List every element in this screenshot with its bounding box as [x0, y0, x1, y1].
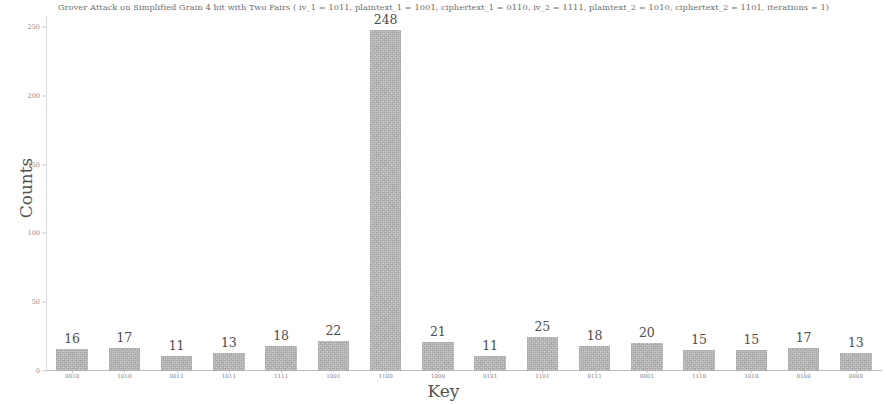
bar	[631, 343, 662, 371]
x-tick-label: 0100	[797, 373, 811, 379]
y-tick-label: 200	[0, 92, 40, 100]
bar	[318, 341, 349, 371]
x-tick-mark	[542, 370, 543, 373]
bar-group: 16	[56, 16, 87, 371]
bar-value-label: 13	[848, 335, 864, 350]
bar-group: 248	[370, 16, 401, 371]
x-tick-mark	[699, 370, 700, 373]
bar-value-label: 248	[374, 12, 398, 27]
bar	[736, 350, 767, 371]
bar-group: 25	[527, 16, 558, 371]
bar-value-label: 15	[743, 332, 759, 347]
x-tick-label: 0101	[483, 373, 497, 379]
x-tick-mark	[804, 370, 805, 373]
x-tick-label: 0001	[640, 373, 654, 379]
x-tick-label: 1010	[744, 373, 758, 379]
bar-value-label: 18	[587, 328, 603, 343]
bar	[370, 30, 401, 371]
bar	[213, 353, 244, 371]
bar	[683, 350, 714, 371]
bar-value-label: 16	[64, 331, 80, 346]
chart-title: Grover Attack on Simplified Grain 4 bit …	[0, 2, 887, 12]
bar	[422, 342, 453, 371]
x-tick-mark	[333, 370, 334, 373]
y-tick-label: 0	[0, 367, 40, 375]
y-tick-label: 50	[0, 298, 40, 306]
x-tick-label: 0011	[170, 373, 184, 379]
bar-group: 11	[474, 16, 505, 371]
bar	[788, 348, 819, 371]
bar-value-label: 25	[534, 319, 550, 334]
bar-group: 21	[422, 16, 453, 371]
x-tick-mark	[281, 370, 282, 373]
histogram-figure: Grover Attack on Simplified Grain 4 bit …	[0, 0, 887, 404]
bar-group: 13	[840, 16, 871, 371]
x-tick-mark	[177, 370, 178, 373]
bar	[265, 346, 296, 371]
bar	[579, 346, 610, 371]
bar-group: 17	[109, 16, 140, 371]
plot-area: 161711131822248211125182015151713	[46, 16, 882, 371]
x-tick-mark	[751, 370, 752, 373]
x-tick-mark	[647, 370, 648, 373]
x-tick-label: 1101	[535, 373, 549, 379]
bar	[840, 353, 871, 371]
x-tick-mark	[438, 370, 439, 373]
bar-group: 15	[683, 16, 714, 371]
x-tick-mark	[386, 370, 387, 373]
y-tick-label: 250	[0, 23, 40, 31]
bar	[161, 356, 192, 371]
bar-value-label: 17	[796, 330, 812, 345]
bar	[474, 356, 505, 371]
x-tick-label: 1010	[117, 373, 131, 379]
y-tick-label: 150	[0, 161, 40, 169]
bar-group: 22	[318, 16, 349, 371]
bar-value-label: 21	[430, 324, 446, 339]
bar-group: 11	[161, 16, 192, 371]
x-tick-mark	[124, 370, 125, 373]
bar-group: 18	[579, 16, 610, 371]
bar-group: 20	[631, 16, 662, 371]
bar-group: 13	[213, 16, 244, 371]
bar-value-label: 11	[169, 338, 185, 353]
x-tick-mark	[72, 370, 73, 373]
bar-group: 15	[736, 16, 767, 371]
bar	[56, 349, 87, 371]
x-tick-mark	[856, 370, 857, 373]
x-tick-label: 0000	[849, 373, 863, 379]
bar-value-label: 17	[116, 330, 132, 345]
x-tick-label: 0111	[588, 373, 602, 379]
x-tick-label: 1001	[326, 373, 340, 379]
x-tick-label: 1110	[692, 373, 706, 379]
x-tick-label: 1000	[431, 373, 445, 379]
x-tick-label: 1111	[274, 373, 288, 379]
x-tick-mark	[595, 370, 596, 373]
bar	[109, 348, 140, 371]
x-tick-mark	[229, 370, 230, 373]
x-tick-label: 1100	[379, 373, 393, 379]
x-tick-label: 0010	[65, 373, 79, 379]
bar-value-label: 13	[221, 335, 237, 350]
bar	[527, 337, 558, 371]
bar-value-label: 18	[273, 328, 289, 343]
x-tick-mark	[490, 370, 491, 373]
bar-value-label: 15	[691, 332, 707, 347]
x-axis-label: Key	[0, 381, 887, 401]
x-tick-label: 1011	[222, 373, 236, 379]
bar-value-label: 11	[482, 338, 498, 353]
bar-group: 17	[788, 16, 819, 371]
bar-value-label: 22	[325, 323, 341, 338]
y-tick-label: 100	[0, 229, 40, 237]
bar-value-label: 20	[639, 325, 655, 340]
bar-group: 18	[265, 16, 296, 371]
